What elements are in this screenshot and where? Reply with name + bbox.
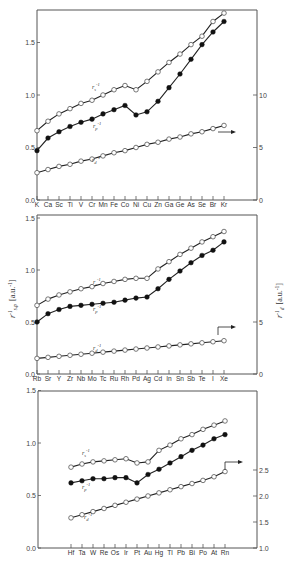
data-point xyxy=(178,343,183,348)
x-tick-label: Ta xyxy=(79,549,86,556)
data-point xyxy=(57,307,62,312)
x-tick-label: Fe xyxy=(110,201,118,208)
x-tick-label: Xe xyxy=(220,375,228,382)
data-point xyxy=(200,253,205,258)
data-point xyxy=(102,476,107,481)
x-tick-label: Br xyxy=(210,201,217,208)
data-point xyxy=(212,474,217,479)
x-tick-label: Sb xyxy=(187,375,195,382)
x-tick-label: Re xyxy=(100,549,109,556)
left-tick-label: 0.5 xyxy=(26,492,36,499)
data-point xyxy=(157,467,162,472)
data-point xyxy=(102,459,107,464)
data-point xyxy=(145,79,150,84)
data-point xyxy=(179,437,184,442)
data-point xyxy=(79,120,84,125)
data-point xyxy=(57,112,62,117)
x-tick-label: Ca xyxy=(44,201,53,208)
data-point xyxy=(134,113,139,118)
x-tick-label: Au xyxy=(144,549,152,556)
data-point xyxy=(90,117,95,122)
data-point xyxy=(189,42,194,47)
left-tick-label: 1.5 xyxy=(25,215,35,222)
data-point xyxy=(79,286,84,291)
data-point xyxy=(157,448,162,453)
data-point xyxy=(201,478,206,483)
x-tick-label: Sr xyxy=(45,375,52,382)
data-point xyxy=(46,355,51,360)
x-tick-label: Bi xyxy=(189,549,195,556)
data-point xyxy=(101,350,106,355)
left-tick-label: 0.5 xyxy=(25,144,35,151)
data-point xyxy=(190,448,195,453)
data-point xyxy=(222,240,227,245)
data-point xyxy=(57,129,62,134)
x-tick-label: Pt xyxy=(134,549,140,556)
left-tick-label: 1.0 xyxy=(25,92,35,99)
data-point xyxy=(168,461,173,466)
data-point xyxy=(168,487,173,492)
data-point xyxy=(167,85,172,90)
label-rd: rd-1 xyxy=(93,343,101,353)
data-point xyxy=(189,132,194,137)
data-point xyxy=(113,503,118,508)
data-point xyxy=(145,142,150,147)
data-point xyxy=(167,60,172,65)
data-point xyxy=(35,356,40,361)
data-point xyxy=(35,303,40,308)
data-point xyxy=(123,277,128,282)
data-point xyxy=(69,481,74,486)
data-point xyxy=(156,267,161,272)
x-tick-label: Sc xyxy=(55,201,63,208)
data-point xyxy=(222,229,227,234)
chart-panel-2: 0.00.51.01.505RbSrYZrNbMoTcRuRhPdAgCdInS… xyxy=(25,215,263,384)
series-rp xyxy=(69,432,228,485)
data-point xyxy=(201,443,206,448)
x-tick-label: Zr xyxy=(67,375,74,382)
label-rd: rd-1 xyxy=(84,512,92,522)
x-tick-label: Po xyxy=(199,549,207,556)
data-point xyxy=(68,106,73,111)
data-point xyxy=(157,491,162,496)
data-point xyxy=(134,347,139,352)
data-point xyxy=(211,126,216,131)
x-tick-label: Sn xyxy=(176,375,184,382)
data-point xyxy=(35,128,40,133)
data-point xyxy=(222,19,227,24)
data-point xyxy=(57,293,62,298)
data-point xyxy=(68,162,73,167)
x-tick-label: Hf xyxy=(68,549,75,556)
x-tick-label: Mo xyxy=(87,375,96,382)
data-point xyxy=(156,286,161,291)
left-tick-label: 0.0 xyxy=(26,545,36,552)
data-point xyxy=(179,454,184,459)
data-point xyxy=(211,30,216,35)
data-point xyxy=(80,462,85,467)
data-point xyxy=(134,87,139,92)
data-point xyxy=(200,34,205,39)
data-point xyxy=(101,93,106,98)
series-rp xyxy=(35,240,227,325)
data-point xyxy=(123,103,128,108)
data-point xyxy=(189,260,194,265)
data-point xyxy=(168,443,173,448)
data-point xyxy=(134,296,139,301)
x-tick-label: Kr xyxy=(221,201,228,208)
data-point xyxy=(178,269,183,274)
data-point xyxy=(68,353,73,358)
data-point xyxy=(68,124,73,129)
x-tick-label: At xyxy=(211,549,217,556)
data-point xyxy=(46,311,51,316)
data-point xyxy=(156,70,161,75)
data-point xyxy=(156,345,161,350)
data-point xyxy=(134,145,139,150)
x-tick-label: W xyxy=(90,549,97,556)
chart-canvas: 0.00.51.01.50510KCaScTiVCrMnFeCoNiCuZnGa… xyxy=(0,0,287,564)
x-tick-label: Pb xyxy=(177,549,185,556)
x-tick-label: Cr xyxy=(89,201,97,208)
data-point xyxy=(123,298,128,303)
data-point xyxy=(90,98,95,103)
x-tick-label: Mn xyxy=(98,201,107,208)
right-tick-label: 2.5 xyxy=(259,467,269,474)
data-point xyxy=(134,276,139,281)
